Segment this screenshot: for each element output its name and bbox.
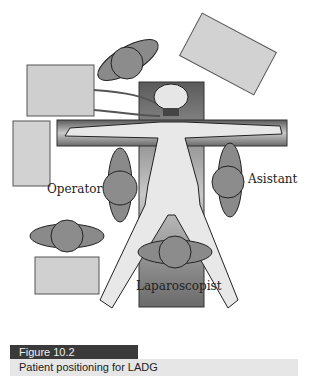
equipment-box-left xyxy=(13,121,50,186)
figure-caption: Patient positioning for LADG xyxy=(10,359,298,376)
assistant-label: Asistant xyxy=(248,172,297,186)
operator-label: Operator xyxy=(47,182,102,196)
monitor-box xyxy=(27,65,94,116)
figure-number: Figure 10.2 xyxy=(10,345,138,359)
equipment-box-bottom-left xyxy=(35,257,99,294)
laparoscopist-label: Laparoscopist xyxy=(136,279,222,293)
